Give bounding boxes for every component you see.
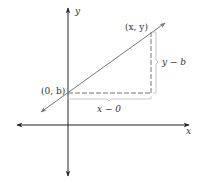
run-label: x − 0 [97, 104, 121, 114]
intercept-point-label: (0, b) [41, 86, 65, 96]
rise-bracket [153, 32, 158, 93]
x-axis-label: x [186, 126, 191, 136]
rise-label: y − b [161, 57, 186, 67]
general-point-label: (x, y) [125, 22, 148, 32]
slope-intercept-diagram: y x (0, b) (x, y) y − b x − 0 [0, 0, 204, 186]
run-bracket [68, 96, 151, 101]
y-axis-label: y [74, 6, 81, 16]
